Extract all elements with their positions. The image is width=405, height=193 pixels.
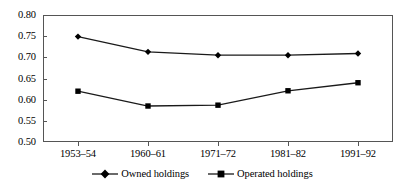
y-tick-mark [43, 36, 47, 37]
y-tick-label: 0.55 [18, 116, 36, 126]
y-tick-mark [43, 121, 47, 122]
y-axis: 0.800.750.700.650.600.550.50 [0, 0, 43, 193]
x-tick-mark [78, 142, 79, 146]
x-tick-label: 1953–54 [60, 148, 96, 159]
y-tick-label: 0.65 [18, 74, 36, 84]
x-tick-mark [148, 142, 149, 146]
x-tick-mark [218, 142, 219, 146]
legend-item-owned-holdings: Owned holdings [92, 168, 189, 180]
x-tick-label: 1971–72 [200, 148, 236, 159]
x-tick-mark [358, 142, 359, 146]
y-tick-mark [43, 79, 47, 80]
chart-legend: Owned holdings Operated holdings [0, 168, 405, 180]
line-chart: 0.800.750.700.650.600.550.50 Owned holdi… [0, 0, 405, 193]
square-marker-icon [208, 168, 234, 180]
y-tick-label: 0.50 [18, 137, 36, 147]
y-tick-label: 0.75 [18, 31, 36, 41]
legend-item-operated-holdings: Operated holdings [208, 168, 313, 180]
y-tick-mark [43, 57, 47, 58]
y-tick-label: 0.60 [18, 95, 36, 105]
plot-area [43, 15, 393, 142]
x-tick-label: 1960–61 [130, 148, 166, 159]
legend-label-operated-holdings: Operated holdings [237, 168, 313, 180]
x-tick-label: 1991–92 [340, 148, 376, 159]
y-tick-label: 0.80 [18, 10, 36, 20]
y-tick-label: 0.70 [18, 52, 36, 62]
x-tick-label: 1981–82 [270, 148, 306, 159]
x-tick-mark [288, 142, 289, 146]
y-tick-mark [43, 100, 47, 101]
diamond-marker-icon [92, 168, 118, 180]
legend-label-owned-holdings: Owned holdings [121, 168, 189, 180]
